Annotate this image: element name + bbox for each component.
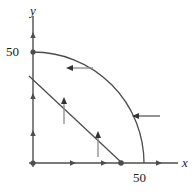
x-axis-tick-label-50: 50 — [133, 171, 146, 184]
y-axis-tick-arrowhead — [30, 93, 35, 99]
x-axis-label: x — [182, 156, 188, 169]
axes-group — [29, 16, 178, 167]
chord-line — [29, 76, 122, 163]
origin-dot — [30, 160, 35, 165]
y-axis-tick-arrowhead — [30, 32, 35, 38]
arrow-head-up-icon — [95, 131, 101, 138]
chord-x-intercept-dot — [118, 160, 124, 166]
y-axis-label: y — [30, 4, 36, 17]
x-axis-tick-arrowhead — [70, 160, 76, 165]
gradient-arrow-upper-arc — [66, 65, 93, 71]
plot-svg — [0, 0, 196, 195]
x-axis-tick-arrowhead — [156, 160, 162, 165]
y-axis-tick-label-50: 50 — [6, 45, 19, 58]
arrow-head-up-icon — [61, 97, 67, 104]
gradient-arrow-lower-chord — [95, 131, 101, 157]
gradient-arrow-lower-arc — [132, 113, 160, 119]
x-axis-tick-arrowhead — [101, 160, 107, 165]
arrow-head-left-icon — [66, 65, 73, 71]
figure-canvas: y x 50 50 — [0, 0, 196, 195]
y-axis-tick-arrowhead — [30, 130, 35, 136]
